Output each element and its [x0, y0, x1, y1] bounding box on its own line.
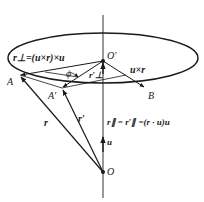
r-label: r: [44, 118, 48, 128]
r-vector: [21, 77, 103, 172]
r-parallel-equation-label: r∥ = r′∥ =(r · u)u: [107, 118, 170, 127]
point-O-label: O: [107, 167, 114, 177]
u-cross-r-label: u×r: [130, 65, 145, 75]
r-perp-equation-label: r⊥=(u×r)×u: [13, 53, 65, 63]
point-O-prime: [101, 59, 105, 63]
construction-line-diag: [45, 72, 78, 77]
r-perp-prime-label: r′⊥: [89, 71, 103, 80]
u-label: u: [107, 138, 112, 147]
point-O-prime-label: O′: [107, 51, 116, 61]
rotation-diagram: [0, 0, 204, 202]
point-A-prime-label: A′: [48, 91, 56, 101]
point-B-label: B: [148, 91, 154, 101]
point-A-label: A: [7, 77, 13, 87]
r-prime-vector: [63, 90, 103, 172]
point-O: [101, 170, 105, 174]
r-prime-label: r′: [78, 114, 85, 124]
phi-label: ϕ: [66, 69, 71, 79]
